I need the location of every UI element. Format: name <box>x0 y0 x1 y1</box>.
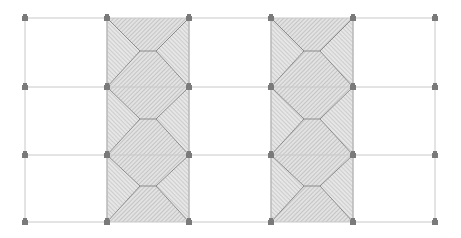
support-node-icon[interactable] <box>22 83 28 90</box>
grid-lines <box>25 18 435 222</box>
support-node-icon[interactable] <box>432 14 438 21</box>
support-node-icon[interactable] <box>350 14 356 21</box>
roof-fills <box>107 18 353 222</box>
support-nodes <box>22 14 438 225</box>
support-node-icon[interactable] <box>432 83 438 90</box>
support-node-icon[interactable] <box>104 14 110 21</box>
support-node-icon[interactable] <box>22 14 28 21</box>
support-node-icon[interactable] <box>432 218 438 225</box>
roof-plan-diagram <box>0 0 461 238</box>
support-node-icon[interactable] <box>22 151 28 158</box>
support-node-icon[interactable] <box>186 14 192 21</box>
support-node-icon[interactable] <box>268 14 274 21</box>
support-node-icon[interactable] <box>22 218 28 225</box>
support-node-icon[interactable] <box>432 151 438 158</box>
diagram-svg <box>0 0 461 238</box>
